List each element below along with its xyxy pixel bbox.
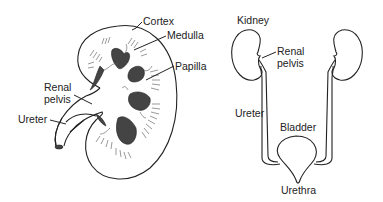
kidney-left bbox=[232, 30, 262, 80]
urinary-system-diagram: Cortex Medulla Papilla Renal pelvis Uret… bbox=[0, 0, 383, 202]
label-cortex: Cortex bbox=[143, 15, 175, 27]
pyramid-4 bbox=[116, 117, 136, 145]
ureter-wall bbox=[64, 120, 84, 146]
label-ureter-left: Ureter bbox=[18, 113, 48, 125]
label-renal-pelvis-line2: pelvis bbox=[44, 93, 71, 105]
ureter-tube bbox=[58, 114, 96, 146]
urinary-system: Kidney Renal pelvis Ureter Bladder Ureth… bbox=[232, 14, 363, 196]
kidney-cross-section: Cortex Medulla Papilla Renal pelvis Uret… bbox=[18, 15, 207, 179]
renal-pelvis-leader bbox=[74, 95, 92, 104]
label-bladder: Bladder bbox=[280, 121, 317, 133]
label-papilla: Papilla bbox=[175, 60, 207, 72]
ureter-opening bbox=[55, 145, 63, 149]
pyramid-1 bbox=[111, 48, 129, 68]
label-renal-pelvis-right-line2: pelvis bbox=[277, 57, 304, 69]
kidney-right bbox=[332, 30, 362, 80]
papilla-leader bbox=[146, 66, 174, 80]
label-kidney: Kidney bbox=[237, 14, 270, 26]
renal-pelvis-leader-right bbox=[262, 52, 276, 58]
pyramid-3 bbox=[128, 92, 150, 110]
label-ureter-right: Ureter bbox=[235, 107, 265, 119]
label-urethra: Urethra bbox=[281, 184, 316, 196]
label-renal-pelvis-right-line1: Renal bbox=[277, 45, 304, 57]
ureter-leader-left bbox=[50, 120, 66, 124]
bladder bbox=[277, 136, 316, 183]
label-medulla: Medulla bbox=[167, 29, 204, 41]
label-renal-pelvis-line1: Renal bbox=[44, 81, 71, 93]
ureter-right-inner bbox=[314, 66, 333, 165]
pyramid-2 bbox=[128, 66, 144, 82]
kidney-outline bbox=[70, 26, 177, 180]
